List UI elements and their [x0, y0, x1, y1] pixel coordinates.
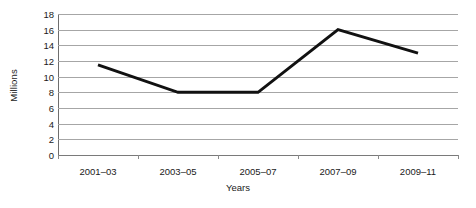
y-axis-tick-label: 2	[49, 134, 54, 145]
plot-area	[58, 14, 458, 155]
x-axis-tick-mark	[58, 155, 59, 159]
y-axis-tick-label: 14	[43, 40, 54, 51]
y-axis-tick-label: 8	[49, 87, 54, 98]
x-axis-tick-label: 2007–09	[320, 166, 357, 177]
y-axis-title-label: Millions	[8, 69, 19, 101]
x-axis-tick-label: 2001–03	[80, 166, 117, 177]
y-axis-tick-label: 12	[43, 56, 54, 67]
x-axis-tick-mark	[218, 155, 219, 159]
x-axis-tick-labels: 2001–032003–052005–072007–092009–11	[0, 166, 476, 180]
x-axis-tick-mark	[458, 155, 459, 159]
x-axis-tick-mark	[138, 155, 139, 159]
series-polyline	[98, 30, 418, 93]
y-axis-tick-label: 0	[49, 150, 54, 161]
x-axis-tick-label: 2005–07	[240, 166, 277, 177]
y-axis-tick-labels: 024681012141618	[24, 0, 54, 170]
x-axis-title: Years	[0, 182, 476, 193]
y-axis-tick-label: 16	[43, 24, 54, 35]
x-axis-tick-mark	[298, 155, 299, 159]
y-axis-title: Millions	[2, 0, 24, 170]
y-axis-tick-label: 10	[43, 71, 54, 82]
x-axis-tick-label: 2003–05	[160, 166, 197, 177]
x-axis-tick-mark	[378, 155, 379, 159]
y-axis-tick-label: 18	[43, 9, 54, 20]
x-axis-tick-label: 2009–11	[400, 166, 436, 177]
y-axis-tick-label: 6	[49, 103, 54, 114]
gridline	[58, 155, 458, 156]
y-axis-tick-label: 4	[49, 118, 54, 129]
data-series-line	[58, 14, 458, 155]
line-chart: Millions 024681012141618 2001–032003–052…	[0, 0, 476, 208]
